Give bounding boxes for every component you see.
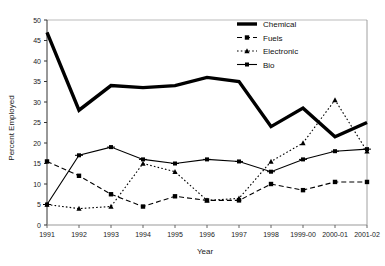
data-point-marker [45,159,49,163]
y-tick-label: 5 [37,201,41,208]
y-tick-label: 30 [33,99,41,106]
data-point-marker [77,174,81,178]
x-tick-label: 1999-00 [290,231,316,238]
x-tick-label: 1992 [71,231,87,238]
data-point-marker [269,182,273,186]
y-tick-label: 35 [33,78,41,85]
x-tick-label: 1991 [39,231,55,238]
data-point-marker [141,204,145,208]
legend-label-chemical: Chemical [263,20,297,29]
x-tick-label: 1993 [103,231,119,238]
data-point-marker [333,180,337,184]
legend-label-fuels: Fuels [263,34,283,43]
data-point-marker [173,194,177,198]
y-axis-title: Percent Employed [7,95,16,160]
x-tick-label: 1995 [167,231,183,238]
y-tick-label: 45 [33,37,41,44]
y-tick-label: 15 [33,160,41,167]
x-tick-label: 1998 [263,231,279,238]
chart-container: 05101520253035404550 1991199219931994199… [0,0,385,266]
x-tick-label: 1997 [231,231,247,238]
x-tick-label: 1996 [199,231,215,238]
y-tick-label: 50 [33,17,41,24]
data-point-marker [109,192,113,196]
data-point-marker [301,188,305,192]
line-chart: 05101520253035404550 1991199219931994199… [0,0,385,266]
legend-label-bio: Bio [263,61,275,70]
x-tick-label: 2001-02 [354,231,380,238]
y-tick-label: 40 [33,58,41,65]
data-point-marker [365,180,369,184]
y-tick-label: 25 [33,119,41,126]
x-tick-label: 1994 [135,231,151,238]
x-axis-title: Year [197,247,214,256]
y-tick-label: 0 [37,222,41,229]
x-tick-label: 2000-01 [322,231,348,238]
y-tick-label: 10 [33,181,41,188]
legend-label-electronic: Electronic [263,47,298,56]
y-tick-label: 20 [33,140,41,147]
data-point-marker [245,35,249,39]
chart-background [0,0,385,266]
